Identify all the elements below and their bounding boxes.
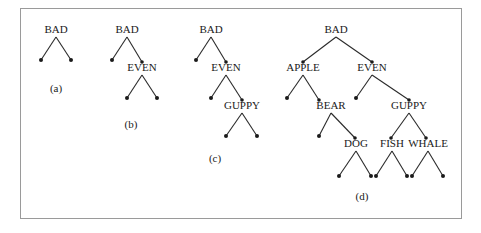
tree-node-bear: BEAR: [316, 99, 346, 111]
tree-edge: [392, 151, 407, 176]
null-leaf-dot: [194, 58, 198, 62]
tree-node-even: EVEN: [357, 61, 386, 73]
tree-edge: [303, 37, 336, 62]
tree-node-bad: BAD: [115, 23, 138, 35]
tree-panel-b: BADEVEN(b): [110, 23, 159, 131]
tree-edge: [331, 113, 355, 138]
null-leaf-dot: [354, 96, 358, 100]
null-leaf-dot: [317, 134, 321, 138]
tree-edge: [356, 151, 371, 176]
tree-edge: [56, 37, 71, 60]
null-leaf-dot: [209, 96, 213, 100]
null-leaf-dot: [39, 58, 43, 62]
tree-panel-a: BAD(a): [39, 23, 73, 95]
tree-edge: [142, 75, 157, 98]
tree-node-guppy: GUPPY: [391, 99, 427, 111]
tree-node-apple: APPLE: [286, 61, 320, 73]
tree-edge: [356, 75, 372, 98]
null-leaf-dot: [441, 174, 445, 178]
tree-edge: [41, 37, 56, 60]
tree-node-even: EVEN: [127, 61, 156, 73]
tree-edge: [127, 37, 142, 62]
tree-node-dog: DOG: [344, 137, 368, 149]
tree-edge: [127, 75, 142, 98]
null-leaf-dot: [125, 96, 129, 100]
tree-edge: [211, 75, 226, 98]
null-leaf-dot: [337, 174, 341, 178]
panel-caption-a: (a): [50, 82, 63, 95]
binary-search-tree-diagram: BAD(a)BADEVEN(b)BADEVENGUPPY(c)BADAPPLEE…: [0, 0, 481, 233]
null-leaf-dot: [110, 58, 114, 62]
null-leaf-dot: [374, 174, 378, 178]
tree-edge: [372, 75, 409, 100]
null-leaf-dot: [285, 96, 289, 100]
tree-edge: [242, 113, 257, 136]
null-leaf-dot: [224, 134, 228, 138]
null-leaf-dot: [410, 174, 414, 178]
tree-node-whale: WHALE: [408, 137, 448, 149]
tree-edge: [196, 37, 211, 60]
null-leaf-dot: [405, 174, 409, 178]
tree-edge: [226, 75, 242, 100]
tree-panel-c: BADEVENGUPPY(c): [194, 23, 260, 165]
panel-caption-b: (b): [125, 118, 138, 131]
tree-node-fish: FISH: [380, 137, 404, 149]
null-leaf-dot: [155, 96, 159, 100]
tree-edge: [409, 113, 426, 138]
tree-panel-d: BADAPPLEEVENBEARGUPPYDOGFISHWHALE(d): [285, 23, 448, 203]
panel-caption-d: (d): [356, 190, 369, 203]
tree-node-bad: BAD: [199, 23, 222, 35]
tree-edge: [226, 113, 242, 136]
tree-edge: [112, 37, 127, 60]
tree-node-guppy: GUPPY: [224, 99, 260, 111]
tree-edge: [428, 151, 443, 176]
tree-edge: [319, 113, 331, 136]
null-leaf-dot: [369, 174, 373, 178]
tree-node-even: EVEN: [211, 61, 240, 73]
tree-edge: [391, 113, 409, 138]
null-leaf-dot: [255, 134, 259, 138]
tree-edge: [336, 37, 372, 62]
tree-edge: [211, 37, 226, 62]
tree-edge: [339, 151, 356, 176]
tree-node-bad: BAD: [44, 23, 67, 35]
null-leaf-dot: [69, 58, 73, 62]
panel-caption-c: (c): [209, 152, 222, 165]
tree-node-bad: BAD: [324, 23, 347, 35]
tree-edge: [376, 151, 392, 176]
tree-edge: [303, 75, 319, 100]
tree-edge: [287, 75, 303, 98]
tree-edge: [412, 151, 428, 176]
